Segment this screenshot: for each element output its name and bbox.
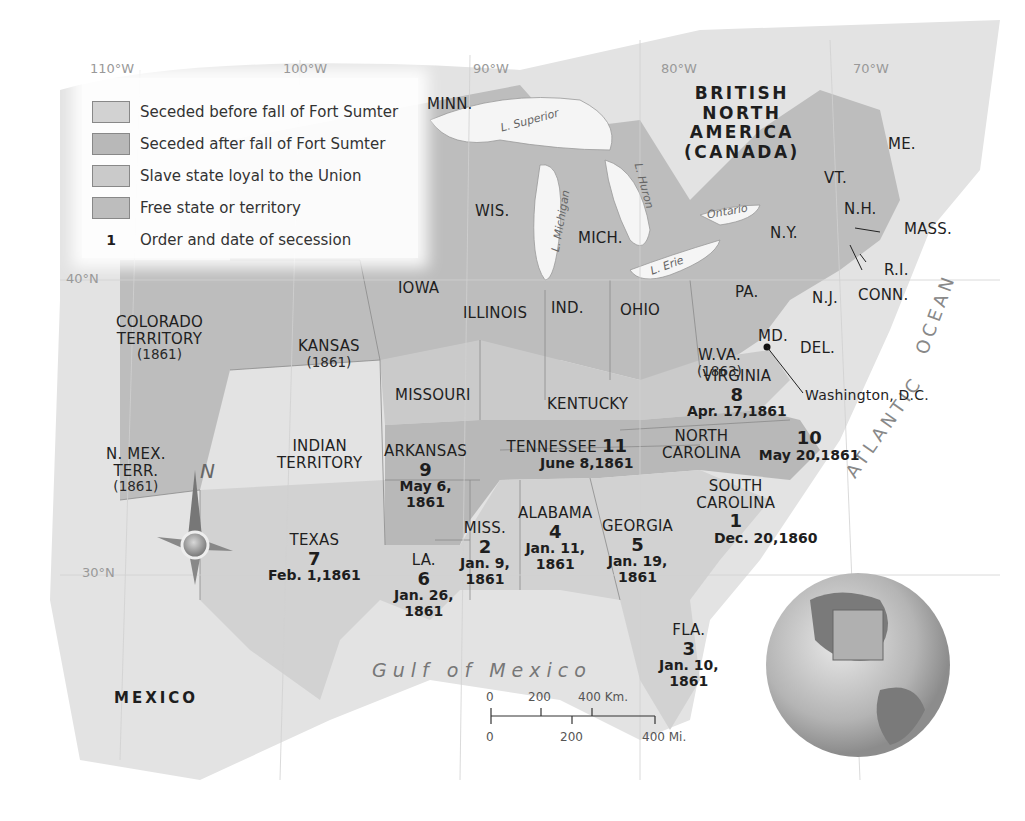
legend-item-seceded-before: Seceded before fall of Fort Sumter — [92, 100, 398, 124]
label-new-jersey: N.J. — [812, 290, 838, 307]
map-legend: Seceded before fall of Fort Sumter Seced… — [82, 78, 418, 258]
legend-item-seceded-after: Seceded after fall of Fort Sumter — [92, 132, 385, 156]
label-canada: BRITISHNORTH AMERICA(CANADA) — [684, 84, 800, 162]
label-washington-dc: Washington, D.C. — [805, 388, 929, 403]
label-michigan: MICH. — [578, 230, 623, 247]
label-alabama: ALABAMA4 Jan. 11,1861 — [518, 505, 592, 572]
compass-north-label: N — [200, 460, 215, 482]
legend-label: Seceded after fall of Fort Sumter — [140, 135, 385, 153]
legend-item-slave-loyal: Slave state loyal to the Union — [92, 164, 361, 188]
lon-100: 100°W — [283, 62, 327, 76]
scale-km-400: 400 Km. — [578, 690, 628, 704]
lon-80: 80°W — [661, 62, 697, 76]
scale-mi-200: 200 — [560, 730, 583, 744]
label-colorado-territory: COLORADOTERRITORY(1861) — [116, 314, 203, 362]
label-texas: TEXAS7 Feb. 1,1861 — [268, 532, 361, 584]
label-iowa: IOWA — [398, 280, 439, 297]
legend-label: Seceded before fall of Fort Sumter — [140, 103, 398, 121]
label-vermont: VT. — [824, 170, 847, 187]
label-new-mexico-territory: N. MEX.TERR.(1861) — [106, 446, 166, 494]
label-new-york: N.Y. — [770, 225, 798, 242]
label-south-carolina: SOUTHCAROLINA 1Dec. 20,1860 — [654, 478, 817, 546]
lon-90: 90°W — [473, 62, 509, 76]
label-kentucky: KENTUCKY — [547, 396, 628, 413]
label-maryland: MD. — [758, 328, 788, 345]
label-gulf-of-mexico: Gulf of Mexico — [372, 660, 592, 681]
order-marker: 1 — [92, 232, 130, 248]
scale-mi-0: 0 — [486, 730, 494, 744]
swatch-free — [92, 197, 130, 219]
label-ohio: OHIO — [620, 302, 660, 319]
label-indiana: IND. — [551, 300, 584, 317]
swatch-seceded-after — [92, 133, 130, 155]
lat-40: 40°N — [66, 272, 99, 286]
label-minnesota: MINN. — [427, 96, 473, 113]
legend-label: Order and date of secession — [140, 231, 351, 249]
legend-label: Free state or territory — [140, 199, 301, 217]
label-georgia: GEORGIA5 Jan. 19,1861 — [602, 518, 673, 585]
scale-mi-400: 400 Mi. — [642, 730, 686, 744]
label-new-hampshire: N.H. — [844, 201, 877, 218]
label-tennessee: TENNESSEE 11 June 8,1861 — [500, 436, 634, 471]
legend-item-order: 1 Order and date of secession — [92, 228, 351, 252]
label-delaware: DEL. — [800, 340, 835, 357]
label-virginia: VIRGINIA8 Apr. 17,1861 — [687, 368, 787, 420]
scale-km-0: 0 — [486, 690, 494, 704]
label-north-carolina: NORTHCAROLINA 10May 20,1861 — [662, 428, 860, 463]
label-connecticut: CONN. — [858, 287, 909, 304]
locator-globe-icon — [766, 573, 950, 757]
swatch-slave-loyal — [92, 165, 130, 187]
label-illinois: ILLINOIS — [463, 305, 527, 322]
label-wisconsin: WIS. — [475, 203, 509, 220]
label-rhode-island: R.I. — [884, 262, 909, 279]
lat-30: 30°N — [82, 566, 115, 580]
legend-item-free: Free state or territory — [92, 196, 301, 220]
label-florida: FLA.3 Jan. 10,1861 — [659, 622, 719, 689]
lon-110: 110°W — [90, 62, 134, 76]
label-mississippi: MISS.2 Jan. 9,1861 — [460, 520, 510, 587]
label-mexico: MEXICO — [114, 690, 198, 707]
label-massachusetts: MASS. — [904, 221, 952, 238]
label-maine: ME. — [888, 136, 916, 153]
swatch-seceded-before — [92, 101, 130, 123]
lon-70: 70°W — [853, 62, 889, 76]
label-indian-territory: INDIANTERRITORY — [277, 438, 362, 471]
label-kansas: KANSAS(1861) — [298, 338, 360, 369]
label-louisiana: LA.6 Jan. 26,1861 — [394, 552, 454, 619]
label-arkansas: ARKANSAS9 May 6,1861 — [384, 443, 467, 510]
legend-label: Slave state loyal to the Union — [140, 167, 361, 185]
label-missouri: MISSOURI — [395, 387, 471, 404]
scale-km-200: 200 — [528, 690, 551, 704]
label-pennsylvania: PA. — [735, 284, 758, 301]
